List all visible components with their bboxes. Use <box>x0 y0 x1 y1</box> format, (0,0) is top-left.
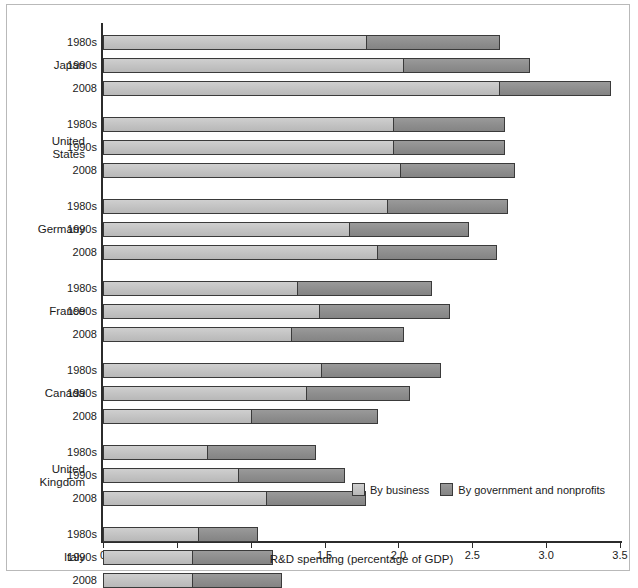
bar-segment-government <box>291 327 404 342</box>
bar-row <box>103 199 508 214</box>
bar-segment-business <box>103 199 388 214</box>
bar-row <box>103 140 505 155</box>
legend-swatch-business-icon <box>352 483 365 496</box>
bar-segment-business <box>103 245 378 260</box>
bar-segment-government <box>349 222 470 237</box>
bar-segment-government <box>403 58 530 73</box>
bar-row <box>103 468 345 483</box>
bar-segment-business <box>103 117 394 132</box>
bar-segment-business <box>103 468 239 483</box>
bar-segment-business <box>103 140 394 155</box>
bar-segment-government <box>319 304 450 319</box>
chart-legend: By business By government and nonprofits <box>352 483 605 496</box>
bar-segment-business <box>103 327 292 342</box>
bar-row <box>103 386 410 401</box>
period-label: 2008 <box>45 327 97 342</box>
period-label: 1990s <box>45 222 97 237</box>
x-tick-7 <box>620 543 621 548</box>
bar-row <box>103 58 530 73</box>
period-label: 2008 <box>45 245 97 260</box>
bar-row <box>103 363 441 378</box>
bar-segment-government <box>393 117 505 132</box>
bar-row <box>103 245 497 260</box>
bar-segment-business <box>103 81 500 96</box>
legend-label-business: By business <box>370 484 429 496</box>
bar-segment-government <box>499 81 611 96</box>
bar-segment-business <box>103 409 252 424</box>
legend-item-business: By business <box>352 483 429 496</box>
period-label: 2008 <box>45 491 97 506</box>
x-tick-0 <box>103 543 104 548</box>
bar-segment-government <box>207 445 316 460</box>
bar-segment-government <box>377 245 498 260</box>
legend-label-government: By government and nonprofits <box>458 484 605 496</box>
bar-segment-government <box>366 35 500 50</box>
bar-row <box>103 527 258 542</box>
bar-segment-business <box>103 386 307 401</box>
bar-row <box>103 573 282 588</box>
bar-segment-business <box>103 304 320 319</box>
bar-row <box>103 409 378 424</box>
bar-row <box>103 35 500 50</box>
period-label: 1990s <box>45 468 97 483</box>
period-label: 2008 <box>45 81 97 96</box>
plot-area: 00.51.01.52.02.53.03.5 <box>101 23 620 541</box>
bar-segment-government <box>387 199 508 214</box>
period-label: 1980s <box>45 117 97 132</box>
legend-item-government: By government and nonprofits <box>440 483 605 496</box>
bar-segment-government <box>393 140 505 155</box>
bar-segment-business <box>103 363 322 378</box>
period-label: 1980s <box>45 363 97 378</box>
bar-segment-government <box>198 527 258 542</box>
bar-row <box>103 281 432 296</box>
bar-row <box>103 445 316 460</box>
legend-swatch-government-icon <box>440 483 453 496</box>
bar-row <box>103 117 505 132</box>
bar-segment-government <box>321 363 442 378</box>
bar-segment-business <box>103 445 208 460</box>
bar-segment-government <box>192 573 282 588</box>
bar-segment-government <box>400 163 515 178</box>
x-tick-5 <box>472 543 473 548</box>
bar-row <box>103 327 404 342</box>
bar-row <box>103 491 366 506</box>
bar-segment-government <box>306 386 410 401</box>
bar-segment-business <box>103 35 367 50</box>
bar-row <box>103 163 515 178</box>
period-label: 1990s <box>45 304 97 319</box>
x-tick-4 <box>398 543 399 548</box>
bar-segment-business <box>103 163 401 178</box>
bar-row <box>103 222 469 237</box>
period-label: 2008 <box>45 163 97 178</box>
bar-segment-government <box>251 409 378 424</box>
bar-row <box>103 81 611 96</box>
bar-segment-business <box>103 222 350 237</box>
figure-frame: JapanUnitedStatesGermanyFranceCanadaUnit… <box>6 4 630 571</box>
period-label: 1990s <box>45 58 97 73</box>
x-tick-2 <box>251 543 252 548</box>
period-label: 1990s <box>45 550 97 565</box>
x-axis-title: R&D spending (percentage of GDP) <box>101 553 622 565</box>
period-label-column: 1980s1990s20081980s1990s20081980s1990s20… <box>41 23 97 541</box>
period-label: 1980s <box>45 281 97 296</box>
period-label: 2008 <box>45 573 97 588</box>
bar-segment-government <box>297 281 432 296</box>
period-label: 2008 <box>45 409 97 424</box>
bar-segment-business <box>103 527 199 542</box>
bar-segment-government <box>238 468 345 483</box>
bar-segment-business <box>103 491 267 506</box>
period-label: 1980s <box>45 445 97 460</box>
bar-segment-business <box>103 573 193 588</box>
period-label: 1980s <box>45 35 97 50</box>
x-tick-3 <box>325 543 326 548</box>
bar-segment-business <box>103 58 404 73</box>
bar-segment-government <box>266 491 366 506</box>
bar-segment-business <box>103 281 298 296</box>
x-tick-1 <box>177 543 178 548</box>
period-label: 1980s <box>45 527 97 542</box>
period-label: 1980s <box>45 199 97 214</box>
x-tick-6 <box>546 543 547 548</box>
bar-row <box>103 304 450 319</box>
period-label: 1990s <box>45 140 97 155</box>
